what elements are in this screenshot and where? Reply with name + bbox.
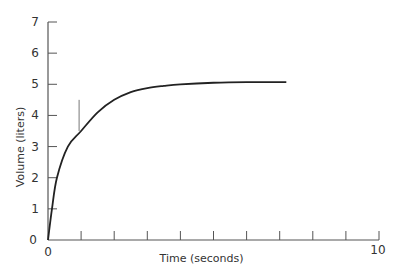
y-tick-label: 0 bbox=[29, 233, 37, 247]
y-tick-label: 4 bbox=[31, 108, 39, 122]
y-tick-label: 6 bbox=[31, 46, 39, 60]
y-tick-label: 7 bbox=[31, 15, 39, 29]
volume-time-chart: 01234567 010 Volume (liters) Time (secon… bbox=[0, 0, 398, 275]
y-axis-title: Volume (liters) bbox=[14, 107, 27, 187]
y-tick-label: 1 bbox=[31, 202, 39, 216]
y-tick-label: 3 bbox=[31, 140, 39, 154]
x-axis-title: Time (seconds) bbox=[159, 252, 244, 265]
y-axis: 01234567 bbox=[29, 15, 57, 247]
y-tick-label: 5 bbox=[31, 77, 39, 91]
volume-curve bbox=[48, 82, 286, 240]
x-tick-label: 10 bbox=[370, 243, 385, 257]
y-ticks: 01234567 bbox=[29, 15, 57, 247]
y-tick-label: 2 bbox=[31, 171, 39, 185]
x-tick-label: 0 bbox=[44, 245, 52, 259]
